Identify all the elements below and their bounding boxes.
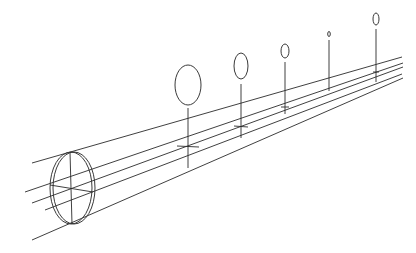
marker-4-ellipse	[328, 32, 331, 37]
markers-group	[175, 13, 379, 168]
marker-3	[281, 44, 289, 114]
diagram-canvas	[0, 0, 416, 253]
marker-1-ellipse	[175, 65, 201, 105]
ray-line-2	[25, 63, 403, 192]
ray-diagram	[0, 0, 416, 253]
ray-line-1	[32, 57, 402, 163]
marker-2-tick	[234, 126, 248, 127]
marker-3-ellipse	[281, 44, 289, 58]
rays-group	[25, 57, 403, 240]
ray-line-3	[32, 67, 403, 203]
marker-4	[328, 32, 331, 92]
marker-1-tick	[177, 146, 199, 147]
ray-line-4	[45, 74, 402, 210]
marker-1	[175, 65, 201, 168]
marker-2-ellipse	[234, 53, 248, 79]
marker-2	[234, 53, 248, 138]
marker-5	[373, 13, 379, 82]
marker-5-ellipse	[373, 13, 379, 25]
